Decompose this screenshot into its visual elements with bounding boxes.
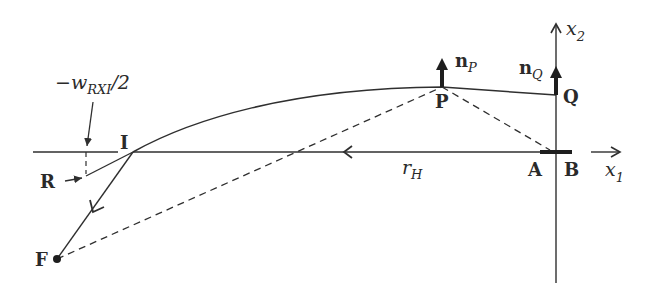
focal-point-F (53, 255, 61, 263)
point-label-Q: Q (563, 86, 579, 107)
point-label-R: R (40, 171, 56, 192)
R-label-pointer (65, 178, 82, 181)
dashed-line-F-to-P (57, 87, 442, 259)
rH-label: rH (402, 156, 423, 182)
ray-I-to-F (57, 152, 133, 259)
width-label-pointer (87, 102, 93, 146)
point-label-P: P (435, 91, 449, 112)
point-label-F: F (35, 249, 48, 270)
normal-label-nP: nP (455, 50, 477, 75)
x2-axis-label: x2 (566, 17, 585, 44)
segment-R-to-I (86, 152, 133, 176)
point-label-A: A (527, 159, 543, 180)
width-label: −wRXI/2 (55, 71, 130, 97)
reflector-geometry-diagram: −wRXI/2 I R F P Q A B nP nQ rH x1 x2 (0, 0, 657, 283)
dashed-line-P-to-A (442, 87, 550, 150)
point-label-B: B (564, 159, 579, 180)
normal-label-nQ: nQ (519, 57, 543, 82)
x1-axis-label: x1 (605, 158, 624, 185)
point-label-I: I (120, 132, 128, 153)
reflector-curve (133, 87, 556, 152)
